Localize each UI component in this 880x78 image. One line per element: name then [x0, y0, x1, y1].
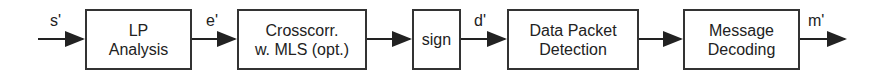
block-sign: sign — [412, 9, 461, 70]
block-crosscorr: Crosscorr. w. MLS (opt.) — [237, 9, 367, 70]
block-label: Message — [709, 21, 774, 40]
block-data-packet-detection: Data Packet Detection — [507, 9, 639, 70]
block-label: sign — [422, 30, 451, 49]
block-message-decoding: Message Decoding — [683, 9, 800, 70]
block-label: Analysis — [109, 40, 169, 59]
block-label: Crosscorr. — [266, 21, 339, 40]
block-label: Decoding — [708, 40, 776, 59]
signal-m-prime: m' — [808, 13, 824, 29]
block-label: LP — [129, 21, 149, 40]
block-label: Data Packet — [529, 21, 616, 40]
signal-s-prime: s' — [50, 13, 61, 29]
signal-d-prime: d' — [474, 13, 486, 29]
block-lp-analysis: LP Analysis — [85, 9, 192, 70]
block-label: Detection — [539, 40, 607, 59]
block-label: w. MLS (opt.) — [255, 40, 349, 59]
signal-e-prime: e' — [206, 13, 218, 29]
